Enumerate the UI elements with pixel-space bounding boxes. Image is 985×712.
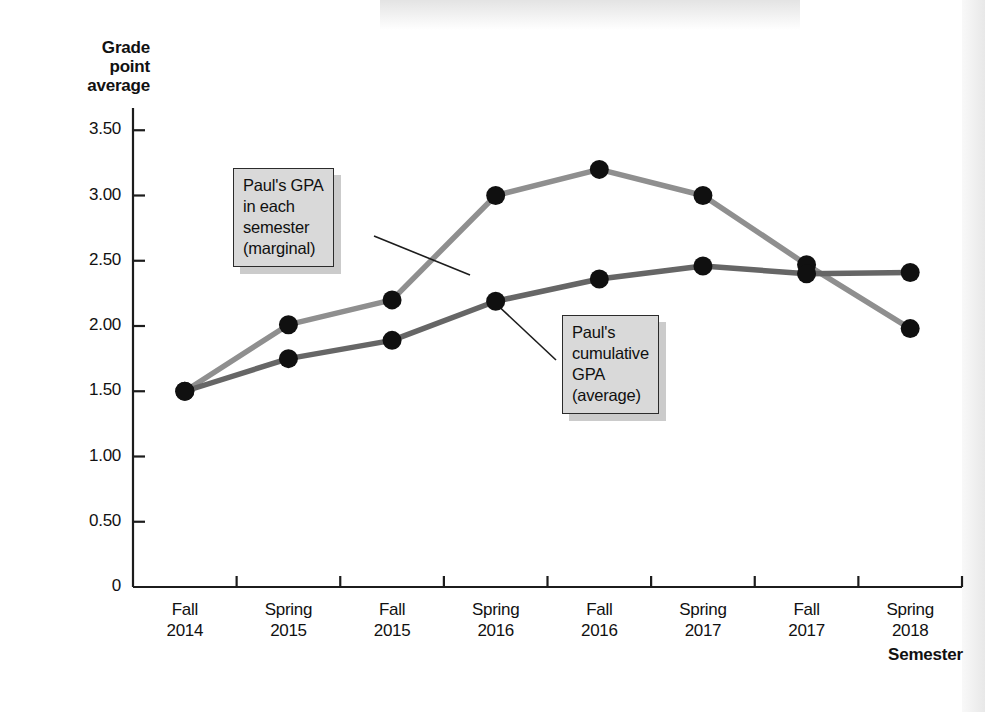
data-point-s0-4	[590, 160, 609, 179]
x-tick-label-1: Spring2015	[236, 599, 340, 641]
y-tick-label-5: 2.50	[49, 251, 121, 269]
x-tick-label-1-line-0: Spring	[236, 599, 340, 620]
data-point-s1-7	[901, 263, 920, 282]
y-tick-label-2: 1.00	[49, 447, 121, 465]
x-tick-label-6: Fall2017	[755, 599, 859, 641]
x-tick-label-4-line-0: Fall	[547, 599, 651, 620]
y-tick-label-1: 0.50	[49, 512, 121, 530]
x-tick-label-6-line-1: 2017	[755, 620, 859, 641]
x-tick-label-3: Spring2016	[444, 599, 548, 641]
annotation-marginal-line-2: in each	[243, 196, 324, 217]
annotation-marginal-line-3: semester	[243, 217, 324, 238]
x-tick-label-3-line-0: Spring	[444, 599, 548, 620]
annotation-marginal: Paul's GPA in each semester (marginal)	[233, 168, 334, 267]
x-tick-label-1-line-1: 2015	[236, 620, 340, 641]
annotation-cumulative-line-4: (average)	[572, 385, 649, 406]
leader-line-cumulative	[492, 300, 556, 360]
data-point-s1-6	[797, 264, 816, 283]
x-tick-label-5: Spring2017	[651, 599, 755, 641]
annotation-cumulative-line-1: Paul's	[572, 322, 649, 343]
y-tick-label-3: 1.50	[49, 381, 121, 399]
data-point-s0-2	[383, 290, 402, 309]
x-tick-label-6-line-0: Fall	[755, 599, 859, 620]
y-tick-label-4: 2.00	[49, 316, 121, 334]
data-point-s0-3	[486, 186, 505, 205]
x-tick-label-2-line-1: 2015	[340, 620, 444, 641]
data-point-s1-2	[383, 331, 402, 350]
annotation-marginal-line-1: Paul's GPA	[243, 175, 324, 196]
x-tick-label-2-line-0: Fall	[340, 599, 444, 620]
y-tick-label-7: 3.50	[49, 120, 121, 138]
x-tick-label-3-line-1: 2016	[444, 620, 548, 641]
y-tick-label-6: 3.00	[49, 186, 121, 204]
annotation-cumulative-line-3: GPA	[572, 364, 649, 385]
annotation-cumulative-line-2: cumulative	[572, 343, 649, 364]
x-tick-label-7-line-1: 2018	[858, 620, 962, 641]
annotation-cumulative: Paul's cumulative GPA (average)	[562, 315, 659, 414]
x-tick-label-4: Fall2016	[547, 599, 651, 641]
data-point-s1-5	[693, 256, 712, 275]
x-tick-label-5-line-1: 2017	[651, 620, 755, 641]
data-point-s0-1	[279, 315, 298, 334]
gpa-line-chart: Grade point average Semester 00.501.001.…	[0, 0, 985, 712]
data-point-s0-5	[693, 186, 712, 205]
data-point-s1-0	[175, 382, 194, 401]
data-point-s1-1	[279, 349, 298, 368]
data-point-s0-7	[901, 319, 920, 338]
annotation-marginal-line-4: (marginal)	[243, 238, 324, 259]
x-tick-label-4-line-1: 2016	[547, 620, 651, 641]
y-tick-label-0: 0	[49, 577, 121, 595]
x-tick-label-2: Fall2015	[340, 599, 444, 641]
data-point-s1-4	[590, 270, 609, 289]
x-tick-label-0-line-1: 2014	[133, 620, 237, 641]
x-tick-label-7-line-0: Spring	[858, 599, 962, 620]
x-tick-label-0: Fall2014	[133, 599, 237, 641]
data-point-s1-3	[486, 292, 505, 311]
x-tick-label-5-line-0: Spring	[651, 599, 755, 620]
x-tick-label-7: Spring2018	[858, 599, 962, 641]
x-tick-label-0-line-0: Fall	[133, 599, 237, 620]
